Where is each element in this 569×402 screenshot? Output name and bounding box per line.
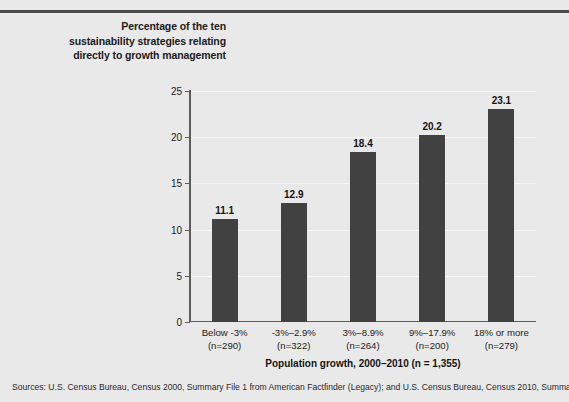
x-axis-tick-label: 9%–17.9%(n=200) xyxy=(398,326,467,352)
x-axis-category-name: 9%–17.9% xyxy=(409,327,455,338)
x-axis-category-name: 3%–8.9% xyxy=(342,327,383,338)
bar-value-label: 18.4 xyxy=(353,138,372,149)
y-axis-caption-line-3: directly to growth management xyxy=(18,48,226,63)
bar-slot: 18.4 xyxy=(328,91,397,322)
source-note: Sources: U.S. Census Bureau, Census 2000… xyxy=(12,382,564,393)
bar[interactable] xyxy=(350,152,376,322)
x-axis-tick-label: -3%–2.9%(n=322) xyxy=(259,326,328,352)
y-axis-caption: Percentage of the ten sustainability str… xyxy=(18,19,226,63)
x-axis-title: Population growth, 2000–2010 (n = 1,355) xyxy=(190,358,536,369)
x-axis-category-count: (n=290) xyxy=(190,339,259,352)
y-axis-tick-label: 10 xyxy=(171,224,182,235)
y-axis-tick-label: 15 xyxy=(171,178,182,189)
y-axis-tick-label: 0 xyxy=(176,317,182,328)
bar[interactable] xyxy=(212,219,238,322)
y-axis-caption-line-1: Percentage of the ten xyxy=(18,19,226,34)
x-axis-category-count: (n=264) xyxy=(328,339,397,352)
bar[interactable] xyxy=(281,203,307,322)
bar-slot: 23.1 xyxy=(467,91,536,322)
y-axis-caption-line-2: sustainability strategies relating xyxy=(18,34,226,49)
bar-value-label: 20.2 xyxy=(422,121,441,132)
x-axis-category-name: Below -3% xyxy=(202,327,248,338)
x-axis-tick-label: 3%–8.9%(n=264) xyxy=(328,326,397,352)
x-axis-category-count: (n=200) xyxy=(398,339,467,352)
bar-slot: 12.9 xyxy=(259,91,328,322)
bar-slot: 20.2 xyxy=(398,91,467,322)
bar-value-label: 12.9 xyxy=(284,189,303,200)
x-axis-tick-labels: Below -3%(n=290)-3%–2.9%(n=322)3%–8.9%(n… xyxy=(190,326,536,358)
top-rule xyxy=(0,10,569,13)
x-axis-category-count: (n=322) xyxy=(259,339,328,352)
chart-figure: Percentage of the ten sustainability str… xyxy=(0,0,569,402)
y-axis-tick-mark xyxy=(185,322,190,323)
bar[interactable] xyxy=(488,109,514,322)
y-axis-tick-label: 20 xyxy=(171,132,182,143)
y-axis-tick-label: 5 xyxy=(176,270,182,281)
bar-slot: 11.1 xyxy=(190,91,259,322)
bar-value-label: 23.1 xyxy=(492,95,511,106)
bar[interactable] xyxy=(419,135,445,322)
x-axis-category-name: -3%–2.9% xyxy=(272,327,316,338)
y-axis-tick-label: 25 xyxy=(171,86,182,97)
plot-area: 0510152025 11.112.918.420.223.1 xyxy=(190,91,536,322)
bar-value-label: 11.1 xyxy=(215,205,234,216)
x-axis-tick-label: Below -3%(n=290) xyxy=(190,326,259,352)
x-axis-tick-label: 18% or more(n=279) xyxy=(467,326,536,352)
bar-series: 11.112.918.420.223.1 xyxy=(190,91,536,322)
x-axis-category-name: 18% or more xyxy=(474,327,529,338)
x-axis-category-count: (n=279) xyxy=(467,339,536,352)
